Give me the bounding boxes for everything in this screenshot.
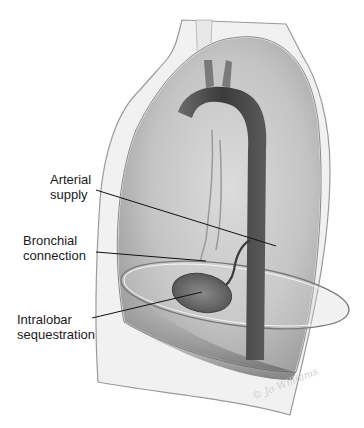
label-intralobar-sequestration: Intralobar sequestration: [17, 312, 95, 342]
label-bronchial-connection: Bronchial connection: [23, 233, 86, 263]
label-arterial-supply: Arterial supply: [50, 172, 91, 202]
illustration-canvas: [0, 0, 364, 428]
